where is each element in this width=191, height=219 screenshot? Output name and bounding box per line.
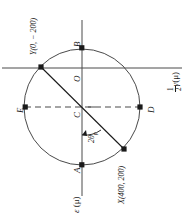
- angle-arrow-head: [82, 130, 87, 136]
- point-marker-D: [137, 104, 142, 109]
- point-marker-B: [79, 45, 84, 50]
- point-marker-A: [79, 162, 84, 167]
- point-marker-X: [121, 146, 126, 151]
- mohr-circle-figure: Y(0, − 200) B O C A E D X(400, 200) 2θp …: [0, 0, 191, 219]
- point-marker-Y: [38, 64, 43, 69]
- point-marker-E: [23, 104, 28, 109]
- mohr-circle-canvas: [0, 0, 191, 219]
